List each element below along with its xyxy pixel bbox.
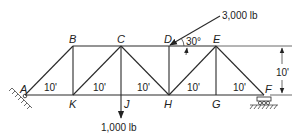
panel-length-5: 10' (233, 82, 246, 93)
node-label-h: H (164, 98, 172, 110)
node-label-a: A (19, 83, 27, 95)
vertical-load-label: 1,000 lb (101, 122, 137, 133)
node-label-d: D (164, 33, 172, 45)
angle-label: 30° (186, 36, 201, 47)
inclined-load-label: 3,000 lb (222, 10, 258, 21)
panel-length-1: 10' (44, 82, 57, 93)
node-label-b: B (69, 33, 76, 45)
node-label-e: E (213, 33, 221, 45)
node-label-k: K (69, 98, 77, 110)
panel-length-3: 10' (137, 82, 150, 93)
node-label-g: G (212, 98, 221, 110)
truss-diagram: 10' 10' 10' 10' 10' 10' A B C D E F G H … (0, 0, 296, 137)
panel-length-2: 10' (93, 82, 106, 93)
panel-length-4: 10' (187, 82, 200, 93)
roller-support-icon (250, 97, 278, 109)
angle-arc-icon (181, 38, 184, 46)
node-label-j: J (123, 98, 130, 110)
node-label-c: C (117, 33, 125, 45)
node-label-f: F (265, 83, 273, 95)
height-dimension-label: 10' (276, 67, 289, 78)
angle-indicator-arrow-icon (186, 48, 187, 55)
